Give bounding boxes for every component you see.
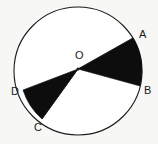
geometry-diagram: O A B C D — [0, 0, 158, 144]
vertex-label-c: C — [34, 121, 42, 133]
vertex-label-b: B — [144, 84, 151, 96]
center-label-o: O — [75, 49, 84, 61]
center-point-dot — [76, 67, 79, 70]
vertex-label-d: D — [11, 85, 19, 97]
figure-canvas: O A B C D — [0, 0, 158, 144]
vertex-label-a: A — [139, 28, 147, 40]
